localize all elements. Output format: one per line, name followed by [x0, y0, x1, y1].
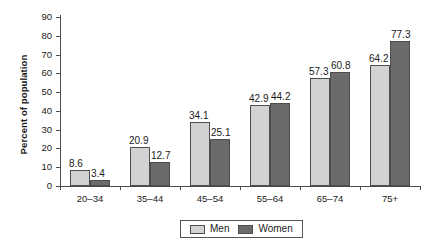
x-axis-tick [60, 186, 61, 190]
y-axis-tick [56, 148, 60, 149]
bar-men[interactable] [130, 147, 150, 186]
y-axis-title: Percent of population [18, 30, 29, 180]
legend-item-women[interactable]: Women [238, 224, 292, 234]
x-axis-tick [360, 186, 361, 190]
y-axis-tick-label: 60 [32, 69, 52, 79]
legend-item-men[interactable]: Men [190, 224, 229, 234]
y-axis-tick-label: 40 [32, 106, 52, 116]
bar-women[interactable] [210, 139, 230, 186]
x-axis-category-label: 55–64 [257, 193, 283, 204]
x-axis-category-label: 75+ [382, 193, 398, 204]
y-axis-tick [56, 92, 60, 93]
bar-women[interactable] [150, 162, 170, 186]
bar-women[interactable] [390, 41, 410, 186]
y-axis-tick [56, 130, 60, 131]
y-axis-tick-label: 90 [32, 12, 52, 22]
y-axis-tick-label: 30 [32, 125, 52, 135]
bar-value-label: 60.8 [331, 61, 350, 71]
bar-group: 64.277.3 [370, 17, 410, 186]
bar-value-label: 25.1 [211, 128, 230, 138]
bar-men[interactable] [370, 65, 390, 186]
legend-label-women: Women [258, 224, 292, 234]
y-axis-line [60, 15, 61, 187]
bar-value-label: 8.6 [69, 159, 83, 169]
x-axis-category-label: 65–74 [317, 193, 343, 204]
bar-value-label: 64.2 [369, 54, 388, 64]
x-axis-tick [180, 186, 181, 190]
bar-men[interactable] [250, 105, 270, 186]
bar-chart: Percent of population 010203040506070809… [0, 0, 433, 248]
bar-value-label: 44.2 [271, 92, 290, 102]
y-axis-tick [56, 55, 60, 56]
bar-women[interactable] [270, 103, 290, 186]
x-axis-tick [420, 186, 421, 190]
x-axis-category-label: 20–34 [77, 193, 103, 204]
bar-group: 8.63.4 [70, 17, 110, 186]
bar-value-label: 3.4 [91, 169, 105, 179]
bar-group: 57.360.8 [310, 17, 350, 186]
bar-value-label: 77.3 [391, 30, 410, 40]
legend: Men Women [180, 220, 303, 238]
y-axis-tick-label: 50 [32, 87, 52, 97]
bar-women[interactable] [90, 180, 110, 186]
bar-women[interactable] [330, 72, 350, 186]
y-axis-tick-label: 20 [32, 144, 52, 154]
x-axis-category-label: 35–44 [137, 193, 163, 204]
bar-value-label: 12.7 [151, 151, 170, 161]
legend-swatch-men [190, 225, 205, 234]
x-axis-tick [120, 186, 121, 190]
legend-label-men: Men [210, 224, 229, 234]
bar-men[interactable] [190, 122, 210, 186]
legend-swatch-women [238, 225, 253, 234]
bar-value-label: 57.3 [309, 67, 328, 77]
y-axis-tick-label: 70 [32, 50, 52, 60]
bar-men[interactable] [70, 170, 90, 186]
y-axis-tick-label: 0 [32, 181, 52, 191]
bar-men[interactable] [310, 78, 330, 186]
bar-group: 34.125.1 [190, 17, 230, 186]
y-axis-tick [56, 36, 60, 37]
bar-value-label: 42.9 [249, 94, 268, 104]
y-axis-tick [56, 17, 60, 18]
y-axis-tick-label: 10 [32, 162, 52, 172]
bar-group: 42.944.2 [250, 17, 290, 186]
y-axis-tick [56, 167, 60, 168]
bar-value-label: 34.1 [189, 111, 208, 121]
y-axis-tick [56, 111, 60, 112]
bar-group: 20.912.7 [130, 17, 170, 186]
x-axis-tick [240, 186, 241, 190]
x-axis-tick [300, 186, 301, 190]
x-axis-category-label: 45–54 [197, 193, 223, 204]
y-axis-tick-label: 80 [32, 31, 52, 41]
bar-value-label: 20.9 [129, 136, 148, 146]
y-axis-tick [56, 73, 60, 74]
